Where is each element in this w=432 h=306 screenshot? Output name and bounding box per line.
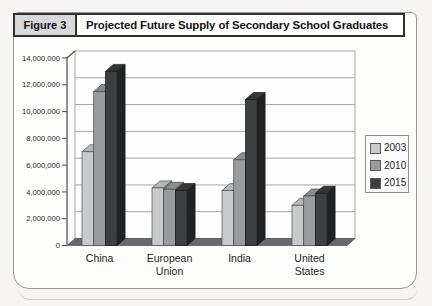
- bar-2010-european-union: [164, 189, 176, 245]
- legend-item-2010: 2010: [370, 158, 408, 174]
- bar-2003-india: [222, 191, 234, 246]
- bar-2003-china: [82, 152, 94, 246]
- y-axis: [67, 51, 75, 246]
- bar-2015-european-union: [175, 191, 187, 246]
- bar-2010-china: [94, 91, 106, 245]
- bar-2015-india-side: [257, 93, 265, 246]
- y-tick-label: 0: [56, 241, 60, 250]
- bar-2003-european-union: [152, 188, 164, 246]
- legend-swatch-2003: [370, 143, 381, 154]
- chart-legend: 200320102015: [365, 135, 409, 193]
- bar-2010-united-states: [304, 196, 316, 246]
- scanned-page-background: Figure 3 Projected Future Supply of Seco…: [0, 0, 432, 306]
- legend-item-2015: 2015: [370, 175, 408, 191]
- y-tick-label: 2,000,000: [26, 214, 60, 223]
- bar-2015-china: [105, 71, 117, 245]
- y-tick-label: 6,000,000: [26, 161, 60, 170]
- x-category-label: India: [228, 252, 251, 264]
- legend-item-2003: 2003: [370, 140, 408, 156]
- bar-2015-china-side: [117, 64, 125, 245]
- bar-2015-united-states: [315, 193, 327, 245]
- x-category-label: UnitedStates: [294, 252, 325, 277]
- bar-2015-european-union-side: [187, 184, 195, 246]
- bar-2003-united-states: [292, 205, 304, 245]
- x-category-label: EuropeanUnion: [147, 252, 193, 277]
- y-tick-label: 8,000,000: [26, 134, 60, 143]
- legend-label-2010: 2010: [384, 161, 406, 171]
- x-category-label: China: [86, 252, 114, 264]
- bar-2010-india: [234, 160, 246, 246]
- legend-swatch-2010: [370, 160, 381, 171]
- legend-label-2003: 2003: [384, 143, 406, 153]
- y-tick-label: 4,000,000: [26, 188, 60, 197]
- y-tick-label: 10,000,000: [22, 107, 60, 116]
- y-tick-label: 12,000,000: [22, 80, 60, 89]
- page-curl-line: [19, 289, 417, 300]
- legend-label-2015: 2015: [384, 178, 406, 188]
- bar-2015-india: [245, 100, 257, 246]
- bar-2015-united-states-side: [327, 186, 335, 245]
- y-tick-label: 14,000,000: [22, 54, 60, 63]
- legend-swatch-2015: [370, 178, 381, 189]
